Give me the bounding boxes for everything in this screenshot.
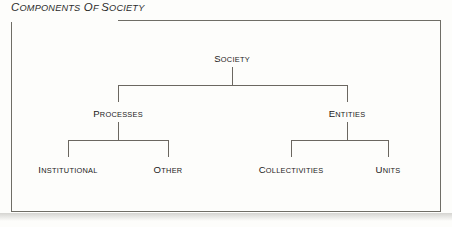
edge-society-stem bbox=[232, 67, 233, 86]
node-entities-lead: E bbox=[329, 108, 336, 119]
edge-processes-bus bbox=[68, 140, 169, 141]
node-society: SOCIETY bbox=[214, 53, 250, 64]
edge-society-to-processes bbox=[118, 85, 119, 102]
figure-title: COMPONENTS OF SOCIETY bbox=[11, 1, 145, 13]
figure-title-rest: OMPONENTS bbox=[19, 3, 80, 13]
node-other-rest: THER bbox=[161, 166, 182, 175]
paper-edge-shadow bbox=[0, 213, 452, 221]
node-units-rest: NITS bbox=[383, 166, 401, 175]
frame-title-gap bbox=[0, 19, 118, 22]
node-other: OTHER bbox=[154, 164, 183, 175]
edge-processes-to-other bbox=[168, 140, 169, 157]
edge-society-to-entities bbox=[347, 85, 348, 102]
edge-entities-bus bbox=[291, 140, 389, 141]
edge-society-bus bbox=[118, 85, 348, 86]
edge-processes-to-institutional bbox=[68, 140, 69, 157]
figure-title-society-rest: OCIETY bbox=[109, 3, 144, 13]
node-entities: ENTITIES bbox=[329, 108, 366, 119]
figure-title-society-lead: S bbox=[101, 1, 109, 13]
figure-frame bbox=[11, 20, 441, 212]
edge-entities-to-collectivities bbox=[291, 140, 292, 157]
figure-page: COMPONENTS OF SOCIETY SOCIETY PROCESSES … bbox=[0, 0, 452, 227]
node-collectivities-rest: OLLECTIVITIES bbox=[266, 166, 323, 175]
node-other-lead: O bbox=[154, 164, 162, 175]
edge-processes-stem bbox=[118, 122, 119, 141]
node-society-lead: S bbox=[214, 53, 221, 64]
node-institutional: INSTITUTIONAL bbox=[38, 164, 97, 175]
figure-title-of-lead: O bbox=[80, 1, 92, 13]
node-collectivities: COLLECTIVITIES bbox=[259, 164, 324, 175]
node-entities-rest: NTITIES bbox=[335, 110, 365, 119]
node-society-rest: OCIETY bbox=[221, 55, 250, 64]
node-processes-lead: P bbox=[93, 108, 100, 119]
node-processes-rest: ROCESSES bbox=[100, 110, 143, 119]
node-units: UNITS bbox=[375, 164, 400, 175]
node-processes: PROCESSES bbox=[93, 108, 143, 119]
edge-entities-to-units bbox=[388, 140, 389, 157]
node-institutional-rest: NSTITUTIONAL bbox=[41, 166, 97, 175]
edge-entities-stem bbox=[347, 122, 348, 141]
